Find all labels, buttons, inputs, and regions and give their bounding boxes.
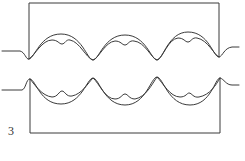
figure-drawing (0, 0, 245, 161)
upper-wave-smooth (2, 32, 239, 60)
figure-number: 3 (8, 124, 14, 139)
upper-frame (29, 3, 219, 59)
lower-wave-smooth (2, 77, 239, 105)
lower-wave-bumped (30, 77, 220, 99)
upper-wave-bumped (29, 38, 219, 60)
